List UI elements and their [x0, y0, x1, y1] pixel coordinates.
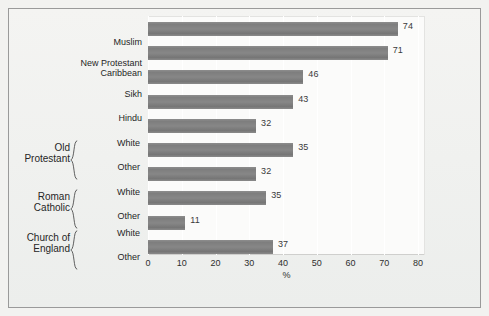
bar-value-label: 32 — [261, 166, 271, 176]
x-tick-label-80: 80 — [413, 258, 423, 268]
group-label-roman-catholic: Roman Catholic — [0, 191, 70, 213]
brace-church-of-england — [70, 225, 78, 275]
bar[interactable] — [148, 119, 256, 133]
bar-row: 46 — [148, 70, 425, 84]
bar-value-label: 37 — [278, 239, 288, 249]
bar-value-label: 11 — [190, 215, 200, 225]
bar[interactable] — [148, 143, 293, 157]
category-label-sikh: Sikh — [22, 89, 142, 99]
bar-row: 37 — [148, 240, 425, 254]
group-label-old-protestant: Old Protestant — [0, 142, 70, 164]
bar[interactable] — [148, 240, 273, 254]
category-labels-column: Muslim New Protestant Caribbean Sikh Hin… — [16, 16, 142, 255]
bar[interactable] — [148, 191, 266, 205]
x-tick-label-0: 0 — [145, 258, 150, 268]
bar-value-label: 74 — [403, 21, 413, 31]
bar-row: 43 — [148, 95, 425, 109]
bar[interactable] — [148, 46, 388, 60]
x-tick-label-30: 30 — [244, 258, 254, 268]
bar-row: 35 — [148, 143, 425, 157]
bar-row: 11 — [148, 216, 425, 230]
x-tick-label-60: 60 — [345, 258, 355, 268]
bar[interactable] — [148, 95, 293, 109]
subcategory-label-church-of-england-white: White — [80, 228, 140, 238]
subcategory-label-church-of-england-other: Other — [80, 252, 140, 262]
bar[interactable] — [148, 22, 398, 36]
bar-value-label: 32 — [261, 118, 271, 128]
subcategory-label-old-protestant-other: Other — [80, 162, 140, 172]
category-label-new-protestant-caribbean: New Protestant Caribbean — [22, 58, 142, 78]
bar-value-label: 71 — [393, 45, 403, 55]
bar-value-label: 35 — [298, 142, 308, 152]
category-label-muslim: Muslim — [22, 37, 142, 47]
bar-row: 71 — [148, 46, 425, 60]
bar-row: 74 — [148, 22, 425, 36]
bar[interactable] — [148, 216, 185, 230]
x-tick-label-20: 20 — [210, 258, 220, 268]
x-tick-label-10: 10 — [177, 258, 187, 268]
brace-old-protestant — [70, 135, 78, 185]
bar[interactable] — [148, 70, 303, 84]
bar-value-label: 46 — [308, 69, 318, 79]
subcategory-label-roman-catholic-white: White — [80, 187, 140, 197]
bar-row: 35 — [148, 191, 425, 205]
x-tick-label-40: 40 — [278, 258, 288, 268]
x-tick-label-50: 50 — [312, 258, 322, 268]
bar-row: 32 — [148, 119, 425, 133]
subcategory-label-old-protestant-white: White — [80, 138, 140, 148]
subcategory-label-roman-catholic-other: Other — [80, 211, 140, 221]
x-tick-label-70: 70 — [379, 258, 389, 268]
bar-value-label: 35 — [271, 190, 281, 200]
plot-area: 74714643323532351137 — [148, 16, 425, 255]
category-label-hindu: Hindu — [22, 113, 142, 123]
x-axis-title: % — [148, 270, 425, 280]
chart-figure: Muslim New Protestant Caribbean Sikh Hin… — [0, 0, 489, 316]
bar[interactable] — [148, 167, 256, 181]
bar-value-label: 43 — [298, 94, 308, 104]
group-label-church-of-england: Church of England — [0, 232, 70, 254]
bar-row: 32 — [148, 167, 425, 181]
